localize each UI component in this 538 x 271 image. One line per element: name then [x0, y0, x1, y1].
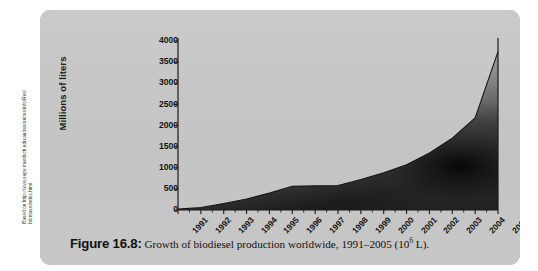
x-tick-label: 2005 — [510, 215, 520, 235]
x-tick-label: 2000 — [396, 215, 416, 235]
x-tick-label: 1997 — [327, 215, 347, 235]
chart-area-plot: Millions of liters 050010001500200025003… — [40, 10, 520, 222]
caption-text-after: L). — [413, 238, 429, 250]
x-tick-label: 1998 — [350, 215, 370, 235]
x-tick-label: 1992 — [213, 215, 233, 235]
x-tick-label: 2004 — [487, 215, 507, 235]
caption-text: Growth of biodiesel production worldwide… — [142, 238, 430, 250]
x-tick-label: 2003 — [464, 215, 484, 235]
x-tick-label: 1991 — [190, 215, 210, 235]
x-tick-label: 1996 — [304, 215, 324, 235]
x-tick-label: 2002 — [441, 215, 461, 235]
figure-caption: Figure 16.8: Growth of biodiesel product… — [70, 234, 510, 252]
chart-svg — [40, 10, 520, 222]
x-tick-label: 1993 — [236, 215, 256, 235]
caption-text-before: Growth of biodiesel production worldwide… — [144, 238, 409, 250]
figure-page: Based on http://www.sepe.murdoch.edu.au/… — [0, 0, 538, 271]
source-credit: Based on http://www.sepe.murdoch.edu.au/… — [22, 49, 34, 224]
x-tick-label: 1999 — [373, 215, 393, 235]
x-tick-label: 2001 — [418, 215, 438, 235]
x-tick-label: 1995 — [281, 215, 301, 235]
caption-figure-number: Figure 16.8: — [70, 236, 142, 251]
figure-panel: Millions of liters 050010001500200025003… — [40, 10, 520, 265]
x-tick-label: 1994 — [258, 215, 278, 235]
